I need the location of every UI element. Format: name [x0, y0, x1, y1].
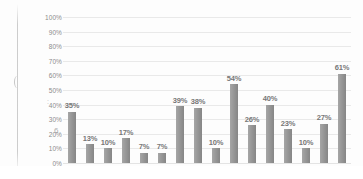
bar-series: 35%13%10%17%7%7%39%38%10%54%26%40%23%10%… — [63, 17, 351, 163]
bar — [104, 148, 111, 163]
bar — [230, 84, 237, 163]
scan-artifact-edge — [17, 4, 18, 172]
bar-slot: 39% — [171, 17, 189, 163]
bar-slot: 27% — [315, 17, 333, 163]
bar-value-label: 10% — [101, 138, 116, 147]
y-axis-tick-label: 70% — [49, 57, 62, 64]
bar — [320, 124, 327, 163]
bar — [284, 129, 291, 163]
bar — [302, 148, 309, 163]
bar-slot: 23% — [279, 17, 297, 163]
bar-slot: 10% — [99, 17, 117, 163]
bar-slot: 35% — [63, 17, 81, 163]
bar-value-label: 27% — [317, 113, 332, 122]
bar-value-label: 40% — [263, 94, 278, 103]
bar-value-label: 26% — [245, 115, 260, 124]
bar-slot: 38% — [189, 17, 207, 163]
bar-slot: 61% — [333, 17, 351, 163]
bar-value-label: 7% — [157, 142, 168, 151]
bar-value-label: 23% — [281, 119, 296, 128]
bar — [194, 108, 201, 163]
bar — [122, 138, 129, 163]
bar-slot: 10% — [207, 17, 225, 163]
bar — [266, 105, 273, 163]
bar — [212, 148, 219, 163]
page-margin — [0, 166, 363, 179]
bar-value-label: 7% — [139, 142, 150, 151]
y-axis-tick-label: 100% — [45, 14, 62, 21]
bar-slot: 40% — [261, 17, 279, 163]
y-axis-tick-label: 80% — [49, 43, 62, 50]
bar-chart: : 6 0%10%20%30%40%50%60%70%80%90%100% 35… — [0, 0, 363, 179]
bar-value-label: 35% — [65, 101, 80, 110]
bar-slot: 7% — [135, 17, 153, 163]
bar-value-label: 10% — [299, 138, 314, 147]
y-axis-tick-label: 10% — [49, 145, 62, 152]
plot-area: 35%13%10%17%7%7%39%38%10%54%26%40%23%10%… — [63, 17, 351, 163]
y-axis-labels: 0%10%20%30%40%50%60%70%80%90%100% — [22, 11, 62, 169]
bar-value-label: 61% — [335, 63, 350, 72]
bar-slot: 26% — [243, 17, 261, 163]
x-axis-line — [63, 163, 351, 164]
bar — [86, 144, 93, 163]
bar-slot: 10% — [297, 17, 315, 163]
bar-value-label: 10% — [209, 138, 224, 147]
bar-value-label: 39% — [173, 96, 188, 105]
bar-slot: 54% — [225, 17, 243, 163]
bar-value-label: 17% — [119, 128, 134, 137]
scan-artifact-notch — [14, 76, 20, 88]
bar — [338, 74, 345, 163]
bar — [140, 153, 147, 163]
bar — [158, 153, 165, 163]
bar-value-label: 54% — [227, 74, 242, 83]
bar — [248, 125, 255, 163]
y-axis-tick-label: 60% — [49, 72, 62, 79]
y-axis-tick-label: 20% — [49, 130, 62, 137]
y-axis-tick-label: 90% — [49, 28, 62, 35]
bar-slot: 7% — [153, 17, 171, 163]
y-axis-tick-label: 40% — [49, 101, 62, 108]
bar-value-label: 38% — [191, 97, 206, 106]
bar — [176, 106, 183, 163]
bar-slot: 17% — [117, 17, 135, 163]
bar-value-label: 13% — [83, 134, 98, 143]
y-axis-tick-label: 30% — [49, 116, 62, 123]
bar — [68, 112, 75, 163]
y-axis-tick-label: 50% — [49, 87, 62, 94]
bar-slot: 13% — [81, 17, 99, 163]
